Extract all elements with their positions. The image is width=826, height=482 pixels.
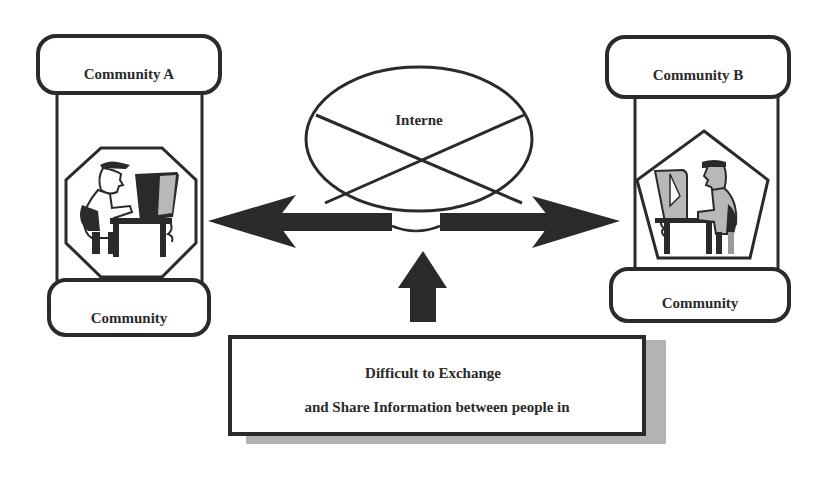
community-b-top-label: Community B [653,67,743,83]
message-box: Difficult to Exchange and Share Informat… [230,337,666,444]
community-b-group: Community B Community [607,37,789,321]
arrow-right-shaft [440,213,560,231]
community-b-bottom-label: Community [662,295,739,311]
internet-label: Interne [395,112,443,128]
community-a-top-label-box [38,36,220,93]
message-line-2: and Share Information between people in [304,399,570,415]
internet-ellipse [306,67,532,211]
internet-node: Interne [306,67,532,211]
community-a-bottom-label: Community [91,310,168,326]
message-line-1: Difficult to Exchange [365,365,501,381]
message-box-frame [230,337,644,434]
arrow-left-shaft [270,213,392,231]
community-a-top-label: Community A [84,66,175,82]
community-a-bottom-label-box [49,280,209,335]
up-arrow [398,251,447,322]
community-a-group: Community A Communi [38,36,220,335]
diagram-canvas: Community A Communi [0,0,826,482]
